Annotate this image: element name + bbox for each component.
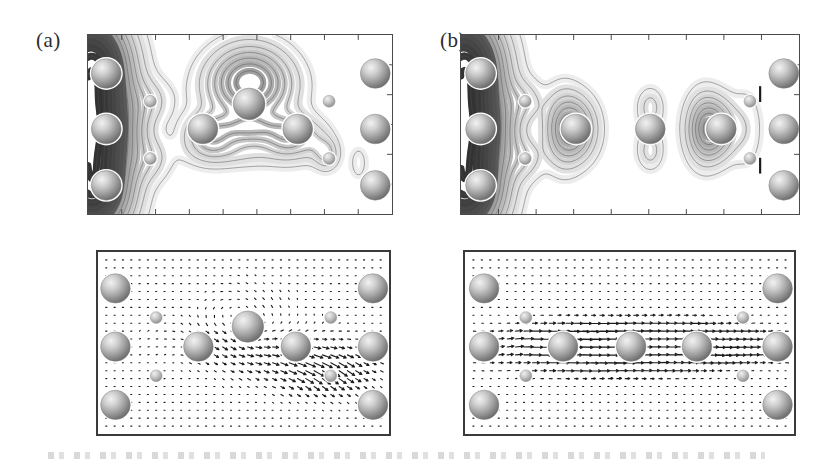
contour-plot-b [461, 35, 799, 214]
panel-label-a: (a) [36, 28, 61, 53]
caption-text-smudge [45, 452, 765, 459]
vector-field-panel-a [96, 250, 391, 436]
vector-field-panel-b [463, 250, 796, 436]
vector-field-plot-a [98, 252, 389, 434]
figure-root: (a) (b) [0, 0, 823, 467]
contour-panel-a [87, 34, 393, 215]
contour-panel-b [460, 34, 800, 215]
vector-field-plot-b [465, 252, 794, 434]
contour-plot-a [88, 35, 392, 214]
